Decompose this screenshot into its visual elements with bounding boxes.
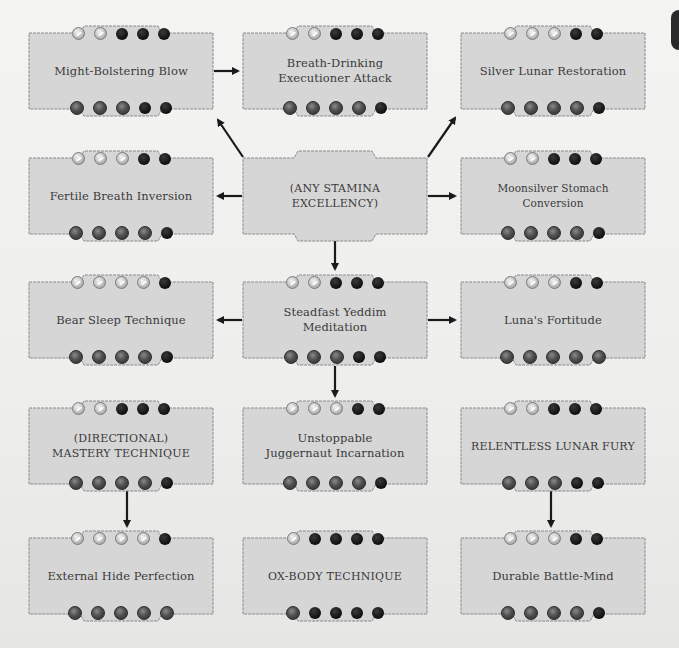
cost-dots-bottom	[28, 476, 214, 490]
silver-dot-icon	[526, 276, 539, 289]
dark-dot-icon	[500, 350, 514, 364]
silver-dot-icon	[548, 276, 561, 289]
silver-dot-icon	[71, 276, 84, 289]
dark-dot-icon	[523, 350, 537, 364]
dark-dot-icon	[283, 101, 297, 115]
dark-dot-icon	[115, 350, 129, 364]
dark-dot-icon	[69, 476, 83, 490]
dark-dot-icon	[286, 606, 300, 620]
charm-label: (DIRECTIONAL)MASTERY TECHNIQUE	[36, 426, 206, 466]
dark-dot-icon	[70, 101, 84, 115]
dark-dot-icon	[138, 476, 152, 490]
black-dot-icon	[570, 277, 582, 289]
dark-dot-icon	[306, 101, 320, 115]
black-dot-icon	[351, 533, 363, 545]
charm-label: Luna's Fortitude	[468, 300, 638, 340]
dark-dot-icon	[569, 350, 583, 364]
black-dot-icon	[137, 403, 149, 415]
silver-dot-icon	[72, 152, 85, 165]
dark-dot-icon	[524, 606, 538, 620]
black-dot-icon	[137, 28, 149, 40]
dark-dot-icon	[138, 226, 152, 240]
silver-dot-icon	[93, 532, 106, 545]
dark-dot-icon	[115, 226, 129, 240]
dark-dot-icon	[329, 101, 343, 115]
charm-any-stamina-excellency[interactable]: (ANY STAMINA EXCELLENCY)	[242, 150, 428, 242]
cost-dots-bottom	[242, 606, 428, 620]
silver-dot-icon	[504, 152, 517, 165]
black-dot-icon	[593, 607, 605, 619]
black-dot-icon	[591, 533, 603, 545]
cost-dots-top	[460, 152, 646, 166]
silver-dot-icon	[504, 532, 517, 545]
black-dot-icon	[351, 277, 363, 289]
dark-dot-icon	[116, 101, 130, 115]
charm-relentless-lunar-fury[interactable]: RELENTLESS LUNAR FURY	[460, 400, 646, 492]
black-dot-icon	[352, 403, 364, 415]
charm-silver-lunar-restoration[interactable]: Silver Lunar Restoration	[460, 25, 646, 117]
charm-label: OX-BODY TECHNIQUE	[250, 556, 420, 596]
black-dot-icon	[309, 607, 321, 619]
dark-dot-icon	[570, 226, 584, 240]
charm-steadfast-yeddim-meditation[interactable]: Steadfast Yeddim Meditation	[242, 274, 428, 366]
black-dot-icon	[548, 153, 560, 165]
dark-dot-icon	[352, 101, 366, 115]
black-dot-icon	[159, 277, 171, 289]
dark-dot-icon	[330, 350, 344, 364]
dark-dot-icon	[501, 606, 515, 620]
black-dot-icon	[161, 227, 173, 239]
black-dot-icon	[571, 477, 583, 489]
cost-dots-bottom	[242, 350, 428, 364]
black-dot-icon	[374, 351, 386, 363]
charm-label-line: Unstoppable	[297, 431, 372, 445]
cost-dots-bottom	[460, 476, 646, 490]
charm-unstoppable-juggernaut-incarnation[interactable]: UnstoppableJuggernaut Incarnation	[242, 400, 428, 492]
charm-bear-sleep-technique[interactable]: Bear Sleep Technique	[28, 274, 214, 366]
charm-label: Steadfast Yeddim Meditation	[250, 300, 420, 340]
black-dot-icon	[116, 28, 128, 40]
dark-dot-icon	[306, 476, 320, 490]
silver-dot-icon	[308, 276, 321, 289]
silver-dot-icon	[286, 276, 299, 289]
dark-dot-icon	[138, 350, 152, 364]
cost-dots-bottom	[28, 226, 214, 240]
cost-dots-top	[28, 402, 214, 416]
black-dot-icon	[375, 477, 387, 489]
charm-label: Durable Battle-Mind	[468, 556, 638, 596]
cost-dots-bottom	[460, 606, 646, 620]
black-dot-icon	[353, 351, 365, 363]
black-dot-icon	[372, 277, 384, 289]
charm-lunas-fortitude[interactable]: Luna's Fortitude	[460, 274, 646, 366]
black-dot-icon	[158, 28, 170, 40]
silver-dot-icon	[526, 152, 539, 165]
charm-breath-drinking-executioner-attack[interactable]: Breath-DrinkingExecutioner Attack	[242, 25, 428, 117]
dark-dot-icon	[160, 606, 174, 620]
dark-dot-icon	[68, 606, 82, 620]
dark-dot-icon	[115, 476, 129, 490]
cost-dots-bottom	[460, 101, 646, 115]
charm-moonsilver-stomach-conversion[interactable]: Moonsilver Stomach Conversion	[460, 150, 646, 242]
dark-dot-icon	[501, 226, 515, 240]
black-dot-icon	[330, 277, 342, 289]
silver-dot-icon	[548, 532, 561, 545]
dark-dot-icon	[93, 101, 107, 115]
black-dot-icon	[373, 403, 385, 415]
black-dot-icon	[351, 28, 363, 40]
dark-dot-icon	[92, 476, 106, 490]
charm-label: Fertile Breath Inversion	[36, 176, 206, 216]
black-dot-icon	[372, 607, 384, 619]
black-dot-icon	[158, 403, 170, 415]
charm-fertile-breath-inversion[interactable]: Fertile Breath Inversion	[28, 150, 214, 242]
dark-dot-icon	[548, 476, 562, 490]
charm-label: RELENTLESS LUNAR FURY	[468, 426, 638, 466]
charm-label: External Hide Perfection	[36, 556, 206, 596]
black-dot-icon	[591, 277, 603, 289]
charm-ox-body-technique[interactable]: OX-BODY TECHNIQUE	[242, 530, 428, 622]
charm-external-hide-perfection[interactable]: External Hide Perfection	[28, 530, 214, 622]
charm-durable-battle-mind[interactable]: Durable Battle-Mind	[460, 530, 646, 622]
charm-directional-mastery-technique[interactable]: (DIRECTIONAL)MASTERY TECHNIQUE	[28, 400, 214, 492]
charm-might-bolstering-blow[interactable]: Might-Bolstering Blow	[28, 25, 214, 117]
dark-dot-icon	[283, 476, 297, 490]
black-dot-icon	[330, 533, 342, 545]
dark-dot-icon	[91, 606, 105, 620]
